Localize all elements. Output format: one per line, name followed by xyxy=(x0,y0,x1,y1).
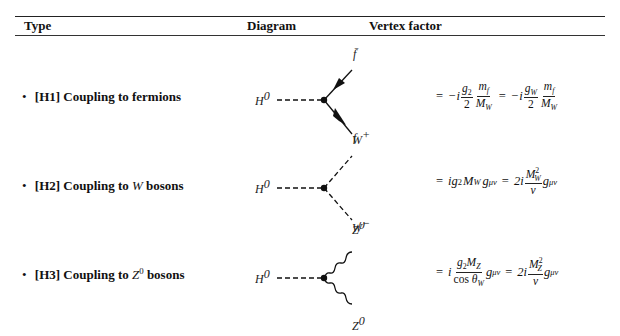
vertex-factor-h2: = ig2 MW gμν = 2i M2Wv gμν xyxy=(436,167,557,196)
row-h1-label: • [H1] Coupling to fermions xyxy=(22,89,181,105)
z-boson-wavy-line-top xyxy=(324,252,352,278)
fbar-label: f̄ xyxy=(353,47,358,61)
vertex-factor-h1: = −i g22 mfMW = −i gW2 mfMW xyxy=(436,80,559,112)
row-description: Coupling to fermions xyxy=(63,89,181,104)
bullet-icon: • xyxy=(22,178,27,193)
header-vertex-factor: Vertex factor xyxy=(369,18,442,34)
arrow-icon xyxy=(333,108,346,125)
row-tag: [H3] xyxy=(35,267,60,282)
w-plus-line xyxy=(324,156,352,188)
feynman-diagram-w-bosons: H0 W+ W− xyxy=(255,132,375,232)
row-tag: [H1] xyxy=(35,89,60,104)
header-type: Type xyxy=(24,18,51,34)
row-h2-label: • [H2] Coupling to W bosons xyxy=(22,178,184,194)
bullet-icon: • xyxy=(22,267,27,282)
higgs-label: H0 xyxy=(255,89,270,108)
row-suffix: bosons xyxy=(146,178,184,193)
z-top-label: Z0 xyxy=(352,222,365,237)
bullet-icon: • xyxy=(22,89,27,104)
row-h3-label: • [H3] Coupling to Z0 bosons xyxy=(22,266,184,283)
top-rule xyxy=(15,16,605,17)
z-boson-wavy-line-bottom xyxy=(324,278,352,304)
row-description: Coupling to xyxy=(63,178,128,193)
w-minus-line xyxy=(324,188,352,220)
w-plus-label: W+ xyxy=(352,132,370,147)
row-suffix: bosons xyxy=(147,267,185,282)
z-bottom-label: Z0 xyxy=(352,314,365,333)
vertex-factor-h3: = i g2MZcos θW gμν = 2i M2Zv gμν xyxy=(436,256,558,288)
header-diagram: Diagram xyxy=(247,18,296,34)
row-math: Z0 xyxy=(132,267,144,282)
higgs-label: H0 xyxy=(255,267,270,286)
row-math: W xyxy=(132,178,143,193)
higgs-label: H0 xyxy=(255,177,270,196)
feynman-diagram-fermions: H0 f̄ f xyxy=(255,44,375,144)
header-rule xyxy=(15,35,605,36)
feynman-diagram-z-bosons: H0 Z0 Z0 xyxy=(255,222,375,336)
row-tag: [H2] xyxy=(35,178,60,193)
row-description: Coupling to xyxy=(63,267,128,282)
